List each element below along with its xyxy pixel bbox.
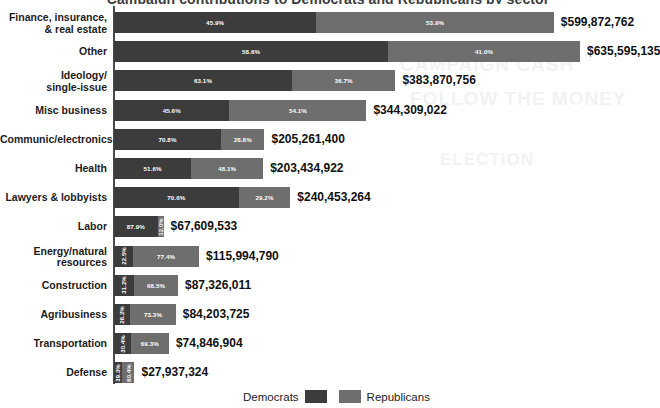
category-label-line: Labor xyxy=(0,221,107,233)
stacked-bar[interactable]: 45.6%54.1% xyxy=(114,100,366,121)
category-label: Ideology/single-issue xyxy=(0,70,107,93)
bar-total-label: $240,453,264 xyxy=(297,187,370,208)
bar-segment-republicans[interactable]: 69.3% xyxy=(131,333,169,354)
bar-segment-democrats[interactable]: 45.6% xyxy=(114,100,229,121)
bar-segment-democrats[interactable]: 63.1% xyxy=(114,70,292,91)
segment-percent-label: 41.0% xyxy=(475,48,493,55)
category-label-line: & real estate xyxy=(0,24,107,36)
category-label-line: Health xyxy=(0,163,107,175)
stacked-bar[interactable]: 45.9%53.9% xyxy=(114,12,554,33)
category-label: Lawyers & lobbyists xyxy=(0,192,107,204)
bar-segment-republicans[interactable]: 68.5% xyxy=(134,275,178,296)
segment-percent-label: 73.3% xyxy=(144,311,162,318)
legend-swatch-republicans xyxy=(339,390,361,403)
segment-percent-label: 54.1% xyxy=(289,107,307,114)
bar-segment-democrats[interactable]: 22.5% xyxy=(114,246,133,267)
legend-label-democrats: Democrats xyxy=(243,391,299,403)
bar-segment-republicans[interactable]: 60.4% xyxy=(122,362,134,383)
bar-total-label: $203,434,922 xyxy=(270,158,343,179)
segment-percent-label: 77.4% xyxy=(157,253,175,260)
bar-total-label: $205,261,400 xyxy=(271,129,344,150)
bar-total-label: $599,872,762 xyxy=(561,12,634,33)
category-label: Health xyxy=(0,163,107,175)
stacked-bar[interactable]: 26.2%73.3% xyxy=(114,304,176,325)
stacked-bar[interactable]: 87.9%12.0% xyxy=(114,216,164,237)
bar-segment-democrats[interactable]: 30.4% xyxy=(114,333,131,354)
segment-percent-label: 45.6% xyxy=(163,107,181,114)
category-label-line: Construction xyxy=(0,280,107,292)
bar-total-label: $635,595,135 xyxy=(587,41,660,62)
legend-swatch-democrats xyxy=(305,390,327,403)
bar-segment-democrats[interactable]: 26.2% xyxy=(114,304,130,325)
stacked-bar[interactable]: 39.3%60.4% xyxy=(114,362,134,383)
bar-segment-republicans[interactable]: 54.1% xyxy=(229,100,366,121)
category-label-line: Defense xyxy=(0,367,107,379)
segment-percent-label: 69.3% xyxy=(141,340,159,347)
segment-percent-label: 70.6% xyxy=(167,194,185,201)
chart-legend: Democrats Republicans xyxy=(243,389,430,404)
bar-segment-republicans[interactable]: 28.8% xyxy=(221,129,265,150)
bar-segment-republicans[interactable]: 12.0% xyxy=(158,216,164,237)
category-label: Communic/electronics xyxy=(0,134,107,146)
stacked-bar[interactable]: 63.1%36.7% xyxy=(114,70,395,91)
bar-segment-democrats[interactable]: 58.6% xyxy=(114,41,388,62)
bar-segment-republicans[interactable]: 73.3% xyxy=(130,304,175,325)
bar-segment-democrats[interactable]: 87.9% xyxy=(114,216,158,237)
bar-total-label: $383,870,756 xyxy=(402,70,475,91)
segment-percent-label: 58.6% xyxy=(242,48,260,55)
category-label: Finance, insurance,& real estate xyxy=(0,12,107,35)
category-label: Energy/naturalresources xyxy=(0,246,107,269)
segment-percent-label: 28.8% xyxy=(234,136,252,143)
bar-segment-democrats[interactable]: 39.3% xyxy=(114,362,122,383)
category-label-line: Lawyers & lobbyists xyxy=(0,192,107,204)
stacked-bar[interactable]: 31.2%68.5% xyxy=(114,275,178,296)
bar-segment-republicans[interactable]: 29.2% xyxy=(239,187,291,208)
stacked-bar[interactable]: 58.6%41.0% xyxy=(114,41,580,62)
segment-percent-label: 26.2% xyxy=(119,306,125,324)
segment-percent-label: 22.5% xyxy=(121,247,127,265)
category-label: Agribusiness xyxy=(0,309,107,321)
segment-percent-label: 36.7% xyxy=(335,77,353,84)
bar-segment-republicans[interactable]: 48.1% xyxy=(191,158,263,179)
segment-percent-label: 70.8% xyxy=(158,136,176,143)
bar-segment-democrats[interactable]: 70.8% xyxy=(114,129,221,150)
segment-percent-label: 48.1% xyxy=(218,165,236,172)
segment-percent-label: 29.2% xyxy=(255,194,273,201)
category-label: Transportation xyxy=(0,338,107,350)
bar-segment-democrats[interactable]: 51.6% xyxy=(114,158,191,179)
category-label-line: Agribusiness xyxy=(0,309,107,321)
bar-segment-republicans[interactable]: 53.9% xyxy=(316,12,554,33)
category-label-line: Other xyxy=(0,46,107,58)
category-label: Construction xyxy=(0,280,107,292)
bar-total-label: $87,326,011 xyxy=(185,275,251,296)
segment-percent-label: 60.4% xyxy=(125,364,131,382)
bar-segment-republicans[interactable]: 41.0% xyxy=(388,41,580,62)
category-label-line: Communic/electronics xyxy=(0,134,107,146)
stacked-bar[interactable]: 70.6%29.2% xyxy=(114,187,290,208)
bar-segment-democrats[interactable]: 45.9% xyxy=(114,12,316,33)
bar-segment-democrats[interactable]: 70.6% xyxy=(114,187,239,208)
legend-label-republicans: Republicans xyxy=(367,391,430,403)
stacked-bar[interactable]: 22.5%77.4% xyxy=(114,246,199,267)
segment-percent-label: 31.2% xyxy=(121,277,127,295)
segment-percent-label: 87.9% xyxy=(127,223,145,230)
stacked-bar[interactable]: 70.8%28.8% xyxy=(114,129,264,150)
category-label-line: Transportation xyxy=(0,338,107,350)
category-label-line: resources xyxy=(0,257,107,269)
stacked-bar[interactable]: 51.6%48.1% xyxy=(114,158,263,179)
segment-percent-label: 45.9% xyxy=(206,19,224,26)
stacked-bar[interactable]: 30.4%69.3% xyxy=(114,333,169,354)
bar-segment-republicans[interactable]: 36.7% xyxy=(292,70,395,91)
segment-percent-label: 68.5% xyxy=(147,282,165,289)
plot-area: Finance, insurance,& real estate45.9%53.… xyxy=(0,6,656,386)
bar-total-label: $67,609,533 xyxy=(171,216,238,237)
bar-segment-republicans[interactable]: 77.4% xyxy=(133,246,199,267)
category-label-line: Finance, insurance, xyxy=(0,12,107,24)
bar-total-label: $115,994,790 xyxy=(206,246,279,267)
category-label: Labor xyxy=(0,221,107,233)
segment-percent-label: 30.4% xyxy=(119,335,125,353)
segment-percent-label: 51.6% xyxy=(144,165,162,172)
bar-segment-democrats[interactable]: 31.2% xyxy=(114,275,134,296)
segment-percent-label: 39.3% xyxy=(115,364,121,382)
